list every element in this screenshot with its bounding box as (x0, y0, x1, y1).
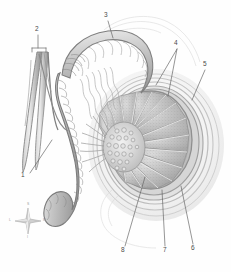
compass-rose-icon (15, 208, 41, 234)
label-1: 1 (21, 172, 25, 179)
label-6: 6 (191, 245, 195, 252)
label-7: 7 (163, 247, 167, 254)
label-5: 5 (203, 61, 207, 68)
label-2: 2 (35, 26, 39, 33)
compass-label-superior: S (27, 203, 29, 206)
compass-label-inferior: I (27, 236, 28, 239)
label-4: 4 (174, 40, 178, 47)
anatomy-illustration (0, 0, 231, 272)
label-3: 3 (104, 12, 108, 19)
label-8: 8 (121, 247, 125, 254)
mediastinum-testis (103, 122, 145, 172)
anatomical-figure: 1 2 3 4 5 6 7 8 S I L M (0, 0, 231, 272)
compass-label-medial: M (43, 219, 46, 222)
compass-label-lateral: L (9, 219, 11, 222)
